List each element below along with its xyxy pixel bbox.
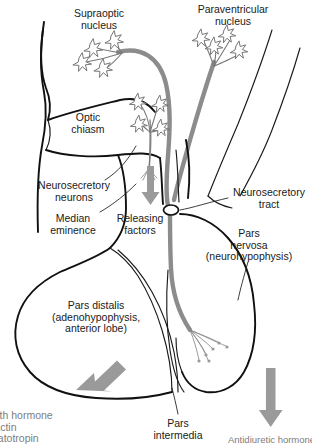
posterior-output-arrow bbox=[259, 368, 283, 427]
supraoptic-neurons bbox=[73, 31, 124, 78]
label-pars-intermedia: Pars intermedia bbox=[144, 418, 212, 441]
label-neurosecretory-neurons: Neurosecretory neurons bbox=[22, 180, 126, 203]
brainstem-outline bbox=[208, 30, 300, 208]
label-neurosecretory-tract: Neurosecretory tract bbox=[226, 187, 312, 210]
label-paraventricular-nucleus: Paraventricular nucleus bbox=[178, 4, 288, 27]
neurosecretory-tract-path bbox=[118, 50, 214, 330]
label-optic-chiasm: Optic chiasm bbox=[52, 112, 124, 135]
label-pars-distalis: Pars distalis (adenohypophysis, anterior… bbox=[30, 300, 162, 335]
pituitary-diagram: Supraoptic nucleus Paraventricular nucle… bbox=[0, 0, 312, 444]
label-pars-nervosa: Pars nervosa (neurohypophysis) bbox=[190, 228, 308, 263]
anterior-output-arrow bbox=[76, 361, 126, 392]
label-posterior-hormone: Antidiuretic hormone bbox=[228, 434, 312, 444]
paraventricular-neurons bbox=[192, 25, 248, 66]
label-releasing-factors: Releasing factors bbox=[104, 213, 176, 236]
label-median-eminence: Median eminence bbox=[38, 213, 108, 236]
label-supraoptic-nucleus: Supraoptic nucleus bbox=[56, 8, 142, 31]
releasing-factors-arrow bbox=[142, 166, 160, 205]
nerve-terminals bbox=[190, 330, 229, 363]
label-anterior-hormones: wth hormone lactin natotropin bbox=[0, 410, 96, 444]
